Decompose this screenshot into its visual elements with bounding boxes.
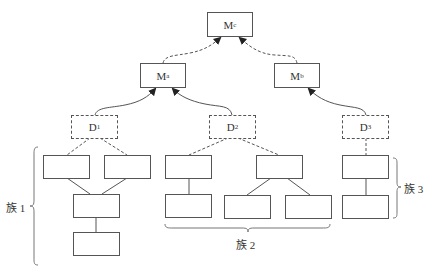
- family-1-box: [43, 155, 90, 179]
- mc-subscript: c: [233, 21, 236, 29]
- family-3-label: 族 3: [404, 180, 423, 196]
- d2-subscript: 2: [235, 123, 239, 131]
- mb-label: M: [290, 70, 300, 82]
- d3-subscript: 3: [368, 123, 372, 131]
- family-2-box: [165, 194, 212, 218]
- ma-subscript: a: [166, 72, 169, 80]
- node-d2: D2: [209, 115, 256, 139]
- family-1-box: [73, 232, 120, 256]
- d1-label: D: [89, 121, 97, 133]
- mc-label: M: [224, 19, 234, 31]
- family-1-label: 族 1: [6, 199, 25, 215]
- family-1-brace: [30, 147, 38, 265]
- family-3-brace: [393, 158, 401, 218]
- mb-to-mc-arrow: [240, 38, 297, 63]
- family-2-box: [285, 195, 332, 219]
- family-2-brace: [165, 224, 330, 232]
- family-2-box: [256, 155, 303, 179]
- d1-subscript: 1: [97, 123, 101, 131]
- node-d3: D3: [342, 115, 389, 139]
- d3-label: D: [360, 121, 368, 133]
- node-ma: Ma: [140, 63, 186, 88]
- family-3-box: [342, 195, 389, 219]
- d1-to-ma-arrow: [95, 89, 155, 115]
- mb-subscript: b: [300, 72, 304, 80]
- ma-label: M: [157, 70, 167, 82]
- family-2-label: 族 2: [236, 236, 255, 252]
- d2-label: D: [227, 121, 235, 133]
- family-1-box: [104, 155, 151, 179]
- family-2-box: [165, 155, 212, 179]
- family-1-box: [73, 194, 120, 218]
- family-3-box: [342, 155, 389, 179]
- node-mc: Mc: [207, 12, 253, 37]
- ma-to-mc-arrow: [163, 38, 220, 63]
- node-mb: Mb: [274, 63, 320, 88]
- d2-to-ma-arrow: [173, 89, 232, 115]
- family-2-box: [224, 195, 271, 219]
- node-d1: D1: [71, 115, 118, 139]
- d3-to-mb-arrow: [309, 89, 366, 115]
